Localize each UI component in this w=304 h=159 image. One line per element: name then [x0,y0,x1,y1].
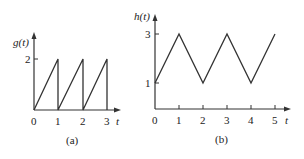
y-axis-arrow-icon [153,14,158,21]
y-tick-label: 3 [145,28,151,40]
x-tick-label: 0 [152,114,158,126]
x-tick-label: 1 [55,115,61,127]
h-series-line [155,34,275,83]
y-axis-arrow-icon [32,32,37,39]
y-axis-label: h(t) [134,10,150,23]
x-tick-label: 4 [248,114,254,126]
y-axis-label: g(t) [13,36,29,49]
x-tick-label: 3 [224,114,230,126]
figure: g(t) 2 0 1 2 3 t (a) h(t) 3 1 0 1 2 3 4 … [0,0,304,159]
chart-b: h(t) 3 1 0 1 2 3 4 5 t (b) [134,10,291,146]
x-axis-arrow-icon [284,107,291,112]
x-tick-label: 3 [104,115,110,127]
x-axis-label: t [285,114,289,126]
y-tick-label: 2 [25,53,31,65]
chart-a: g(t) 2 0 1 2 3 t (a) [13,32,121,147]
x-axis-arrow-icon [114,108,121,113]
x-tick-label: 0 [31,115,37,127]
y-tick-label: 1 [145,77,151,89]
x-tick-label: 5 [272,114,278,126]
caption-b: (b) [215,133,228,146]
x-axis-label: t [116,115,120,127]
caption-a: (a) [66,134,79,147]
x-tick-label: 2 [200,114,206,126]
x-tick-label: 1 [176,114,182,126]
x-tick-label: 2 [80,115,86,127]
g-series-line [34,59,107,110]
